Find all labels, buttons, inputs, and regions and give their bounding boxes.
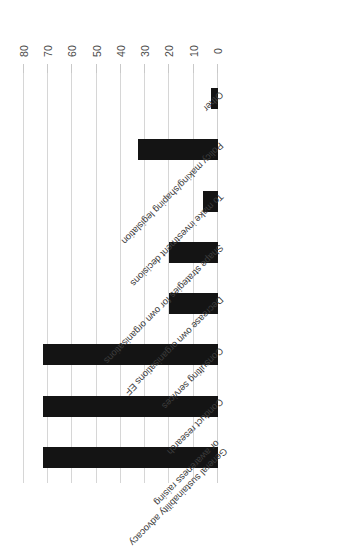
- bar: [43, 396, 218, 417]
- gridline-0: [217, 73, 218, 483]
- x-axis-tick-label-50: 50: [91, 45, 103, 57]
- x-axis-tick-label-60: 60: [67, 45, 79, 57]
- x-axis-tick-label-10: 10: [188, 45, 200, 57]
- x-axis-tick-label-30: 30: [139, 45, 151, 57]
- chart-figure: 01020304050607080 General sustainability…: [0, 0, 363, 555]
- bar: [43, 344, 218, 365]
- tick-mark-50: [96, 64, 97, 73]
- x-axis-tick-label-70: 70: [42, 45, 54, 57]
- gridline-80: [23, 73, 24, 483]
- tick-mark-80: [23, 64, 24, 73]
- tick-mark-60: [72, 64, 73, 73]
- tick-mark-20: [169, 64, 170, 73]
- gridline-70: [47, 73, 48, 483]
- gridline-20: [169, 73, 170, 483]
- x-axis-tick-label-20: 20: [164, 45, 176, 57]
- tick-mark-70: [47, 64, 48, 73]
- gridline-60: [72, 73, 73, 483]
- tick-mark-0: [217, 64, 218, 73]
- tick-mark-10: [193, 64, 194, 73]
- gridline-50: [96, 73, 97, 483]
- x-axis-tick-label-40: 40: [115, 45, 127, 57]
- x-axis-tick-label-80: 80: [18, 45, 30, 57]
- tick-mark-30: [144, 64, 145, 73]
- gridline-40: [120, 73, 121, 483]
- tick-mark-40: [120, 64, 121, 73]
- x-axis-tick-label-0: 0: [212, 48, 224, 54]
